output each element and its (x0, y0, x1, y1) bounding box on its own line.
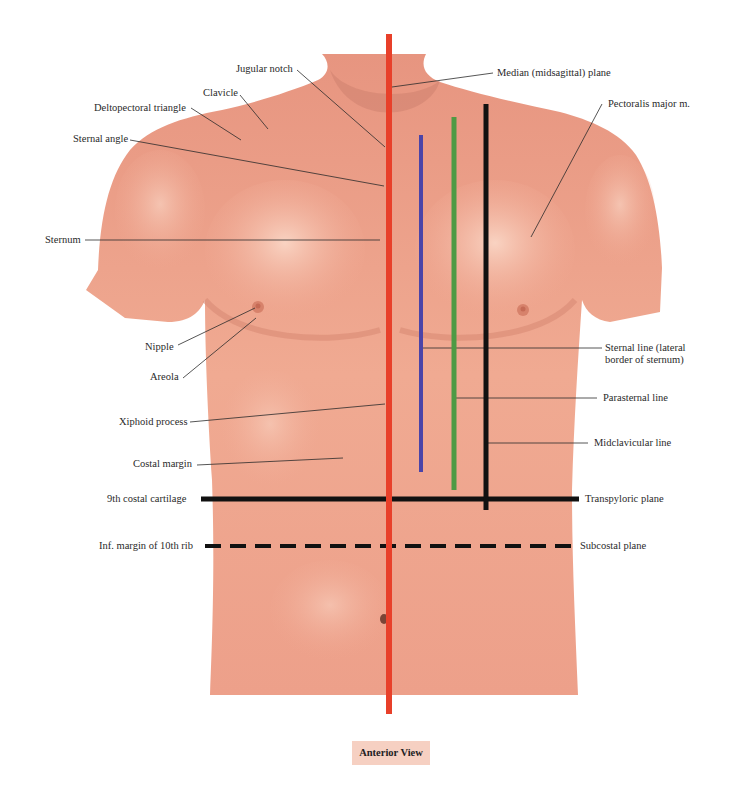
label-xiphoid-process: Xiphoid process (119, 416, 188, 428)
figure-caption: Anterior View (352, 741, 430, 765)
label-inf-margin-10th-rib: Inf. margin of 10th rib (99, 540, 193, 552)
label-jugular-notch: Jugular notch (236, 63, 293, 75)
label-midclavicular-line: Midclavicular line (594, 437, 671, 449)
label-sternum: Sternum (45, 234, 81, 246)
label-parasternal-line: Parasternal line (603, 392, 668, 404)
label-nipple: Nipple (145, 341, 174, 353)
anatomy-figure: Jugular notch Clavicle Deltopectoral tri… (0, 0, 732, 796)
label-deltopectoral-triangle: Deltopectoral triangle (94, 102, 186, 114)
label-pectoralis-major: Pectoralis major m. (608, 98, 690, 110)
label-areola: Areola (150, 371, 179, 383)
label-sternal-line-1: Sternal line (lateral (605, 342, 685, 353)
label-transpyloric-plane: Transpyloric plane (585, 493, 664, 505)
label-subcostal-plane: Subcostal plane (580, 540, 646, 552)
label-costal-margin: Costal margin (133, 458, 192, 470)
label-sternal-line-2: border of sternum) (605, 354, 684, 365)
label-9th-costal-cartilage: 9th costal cartilage (107, 493, 186, 505)
label-median-plane: Median (midsagittal) plane (497, 67, 611, 79)
label-clavicle: Clavicle (203, 87, 238, 99)
label-sternal-angle: Sternal angle (73, 133, 128, 145)
label-sternal-line: Sternal line (lateralborder of sternum) (605, 342, 685, 366)
